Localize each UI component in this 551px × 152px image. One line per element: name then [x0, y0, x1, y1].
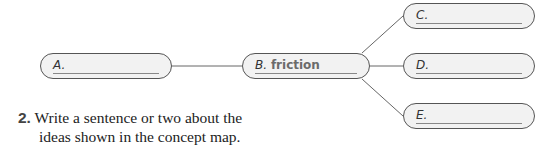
answer-line — [416, 73, 522, 74]
concept-node-b: B. friction — [242, 53, 370, 79]
question-line-2: ideas shown in the concept map. — [18, 127, 242, 146]
node-b-label: B. friction — [255, 58, 320, 72]
node-a-label: A. — [53, 58, 65, 72]
node-c-label: C. — [416, 8, 428, 22]
answer-line — [255, 73, 357, 74]
concept-node-a[interactable]: A. — [40, 53, 172, 79]
answer-line — [53, 73, 159, 74]
question-2: 2. Write a sentence or two about the ide… — [18, 108, 242, 146]
node-b-text: friction — [271, 58, 320, 72]
concept-node-e[interactable]: E. — [403, 103, 535, 129]
concept-node-d[interactable]: D. — [403, 53, 535, 79]
concept-node-c[interactable]: C. — [403, 3, 535, 29]
node-d-label: D. — [416, 58, 429, 72]
node-e-label: E. — [416, 108, 427, 122]
answer-line — [416, 23, 522, 24]
question-number: 2. — [18, 109, 31, 126]
question-line-1: Write a sentence or two about the — [35, 109, 243, 126]
answer-line — [416, 123, 522, 124]
